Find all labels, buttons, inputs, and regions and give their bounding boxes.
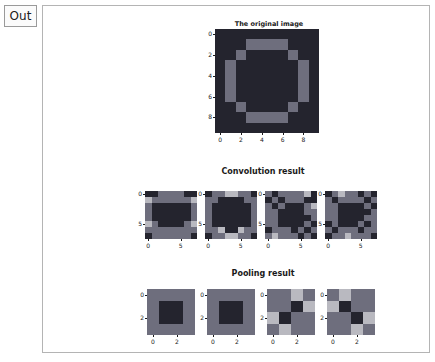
- axes-convolution-4-grid: [325, 191, 377, 239]
- x-tick-label: 0: [331, 339, 335, 345]
- heatmap-cell: [311, 233, 318, 239]
- y-tick-label: 2: [136, 315, 144, 321]
- y-tick-label: 5: [134, 221, 142, 227]
- heatmap-cell: [243, 324, 255, 336]
- heatmap-cell: [257, 123, 267, 133]
- heatmap-cell: [309, 91, 319, 101]
- heatmap-cell: [327, 324, 339, 336]
- x-tick-mark: [153, 335, 154, 337]
- heatmap-cell: [159, 289, 171, 301]
- heatmap-cell: [298, 60, 308, 70]
- x-tick-label: 2: [235, 339, 239, 345]
- heatmap-cell: [257, 60, 267, 70]
- heatmap-cell: [225, 112, 235, 122]
- heatmap-cell: [215, 102, 225, 112]
- heatmap-cell: [288, 81, 298, 91]
- heatmap-cell: [159, 312, 171, 324]
- heatmap-cell: [277, 91, 287, 101]
- x-tick-mark: [220, 133, 221, 135]
- heatmap-cell: [236, 29, 246, 39]
- x-tick-label: 2: [175, 339, 179, 345]
- x-tick-mark: [303, 133, 304, 135]
- heatmap-cell: [191, 233, 198, 239]
- heatmap-cell: [288, 123, 298, 133]
- heatmap-cell: [351, 324, 363, 336]
- y-tick-label: 2: [196, 315, 204, 321]
- heatmap-cell: [215, 91, 225, 101]
- title-convolution-result: Convolution result: [203, 167, 323, 176]
- heatmap-cell: [257, 50, 267, 60]
- heatmap-cell: [225, 102, 235, 112]
- heatmap-cell: [183, 301, 195, 313]
- heatmap-cell: [298, 81, 308, 91]
- heatmap-cell: [267, 102, 277, 112]
- heatmap-cell: [257, 102, 267, 112]
- axes-convolution-3: 0505: [265, 191, 317, 239]
- heatmap-cell: [279, 324, 291, 336]
- heatmap-cell: [303, 289, 315, 301]
- heatmap-cell: [339, 324, 351, 336]
- heatmap-cell: [339, 289, 351, 301]
- heatmap-cell: [288, 60, 298, 70]
- heatmap-cell: [291, 324, 303, 336]
- heatmap-cell: [243, 289, 255, 301]
- axes-convolution-4: 0505: [325, 191, 377, 239]
- heatmap-cell: [236, 50, 246, 60]
- heatmap-cell: [267, 301, 279, 313]
- heatmap-cell: [309, 102, 319, 112]
- axes-convolution-2: 0505: [205, 191, 257, 239]
- out-prompt-label: Out: [10, 9, 32, 23]
- heatmap-cell: [207, 301, 219, 313]
- heatmap-cell: [267, 324, 279, 336]
- heatmap-cell: [257, 91, 267, 101]
- heatmap-cell: [215, 50, 225, 60]
- heatmap-cell: [257, 39, 267, 49]
- heatmap-cell: [279, 289, 291, 301]
- heatmap-cell: [267, 312, 279, 324]
- heatmap-cell: [257, 29, 267, 39]
- heatmap-cell: [231, 312, 243, 324]
- heatmap-cell: [363, 289, 375, 301]
- heatmap-cell: [225, 91, 235, 101]
- heatmap-cell: [309, 71, 319, 81]
- x-tick-label: 0: [218, 137, 222, 143]
- heatmap-cell: [246, 29, 256, 39]
- heatmap-cell: [236, 81, 246, 91]
- heatmap-cell: [246, 50, 256, 60]
- x-tick-label: 0: [271, 339, 275, 345]
- y-tick-mark: [213, 76, 215, 77]
- heatmap-cell: [298, 50, 308, 60]
- heatmap-cell: [246, 102, 256, 112]
- heatmap-cell: [246, 112, 256, 122]
- y-tick-label: 6: [204, 94, 212, 100]
- y-tick-mark: [205, 318, 207, 319]
- x-tick-label: 0: [211, 339, 215, 345]
- y-tick-mark: [265, 295, 267, 296]
- heatmap-cell: [309, 81, 319, 91]
- heatmap-cell: [267, 39, 277, 49]
- heatmap-cell: [277, 50, 287, 60]
- heatmap-cell: [363, 324, 375, 336]
- screenshot-root: Out The original image Convolution resul…: [0, 0, 435, 362]
- heatmap-cell: [215, 60, 225, 70]
- x-tick-label: 0: [326, 243, 330, 249]
- heatmap-cell: [215, 39, 225, 49]
- heatmap-cell: [339, 301, 351, 313]
- heatmap-cell: [288, 50, 298, 60]
- heatmap-cell: [298, 71, 308, 81]
- y-tick-label: 0: [256, 292, 264, 298]
- heatmap-cell: [236, 39, 246, 49]
- heatmap-cell: [207, 289, 219, 301]
- notebook-output-frame: The original image Convolution result Po…: [42, 5, 430, 353]
- heatmap-cell: [363, 301, 375, 313]
- heatmap-cell: [215, 71, 225, 81]
- heatmap-cell: [309, 112, 319, 122]
- y-tick-mark: [265, 318, 267, 319]
- y-tick-mark: [203, 224, 205, 225]
- heatmap-cell: [215, 123, 225, 133]
- heatmap-cell: [309, 123, 319, 133]
- heatmap-cell: [147, 324, 159, 336]
- heatmap-cell: [171, 301, 183, 313]
- y-tick-label: 0: [254, 191, 262, 197]
- heatmap-cell: [267, 81, 277, 91]
